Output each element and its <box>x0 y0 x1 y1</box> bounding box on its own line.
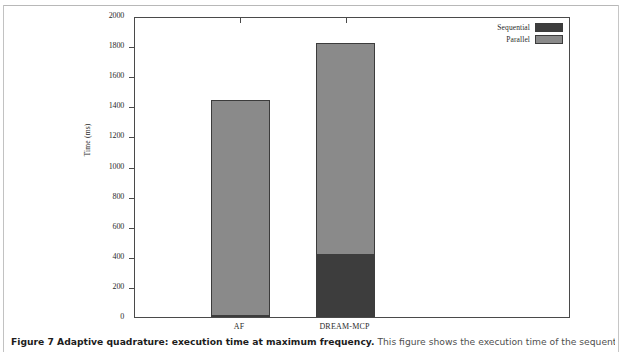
legend-item-sequential[interactable]: Sequential <box>497 23 563 32</box>
y-axis-tick-label: 0 <box>120 312 124 321</box>
legend-color-swatch <box>535 35 563 44</box>
legend-item-parallel[interactable]: Parallel <box>506 35 563 44</box>
plot-area <box>135 18 569 317</box>
y-axis-tick-label: 400 <box>113 252 124 261</box>
y-axis-title: Time (ms) <box>83 100 92 180</box>
bar-segment-parallel[interactable] <box>316 43 375 254</box>
chart-figure: 0200400600800100012001400160018002000 Ti… <box>0 0 622 330</box>
bar-dream-mcp[interactable] <box>316 43 375 317</box>
y-axis-tick-label: 2000 <box>109 11 124 20</box>
x-axis-category-label: AF <box>189 322 289 331</box>
y-axis-tick-label: 1600 <box>109 71 124 80</box>
y-axis-tick-label: 200 <box>113 282 124 291</box>
chart-legend: SequentialParallel <box>491 21 567 46</box>
x-axis-top-tick <box>240 18 241 23</box>
y-axis-tick-label: 1200 <box>109 131 124 140</box>
y-axis-tick-label: 600 <box>113 222 124 231</box>
legend-item-label: Sequential <box>497 23 530 32</box>
bar-segment-sequential[interactable] <box>316 254 375 317</box>
figure-caption: Figure 7 Adaptive quadrature: execution … <box>11 336 615 348</box>
bar-segment-sequential[interactable] <box>211 315 270 317</box>
y-axis-tick-label: 1400 <box>109 101 124 110</box>
y-axis-tick-label: 800 <box>113 192 124 201</box>
plot-frame: SequentialParallel <box>134 17 570 318</box>
legend-item-label: Parallel <box>506 35 530 44</box>
figure-page: 0200400600800100012001400160018002000 Ti… <box>0 0 622 352</box>
x-axis-top-tick <box>346 18 347 23</box>
x-axis-category-label: DREAM-MCP <box>295 322 395 331</box>
y-axis-tick-label: 1800 <box>109 41 124 50</box>
figure-caption-body: This figure shows the execution time of … <box>374 336 615 347</box>
y-axis-tick-label: 1000 <box>109 162 124 171</box>
bar-segment-parallel[interactable] <box>211 100 270 314</box>
y-axis-tick-mark <box>129 318 134 319</box>
legend-color-swatch <box>535 23 563 32</box>
y-axis: 0200400600800100012001400160018002000 <box>0 0 134 330</box>
bar-af[interactable] <box>211 100 270 317</box>
figure-caption-title: Figure 7 Adaptive quadrature: execution … <box>11 336 374 347</box>
